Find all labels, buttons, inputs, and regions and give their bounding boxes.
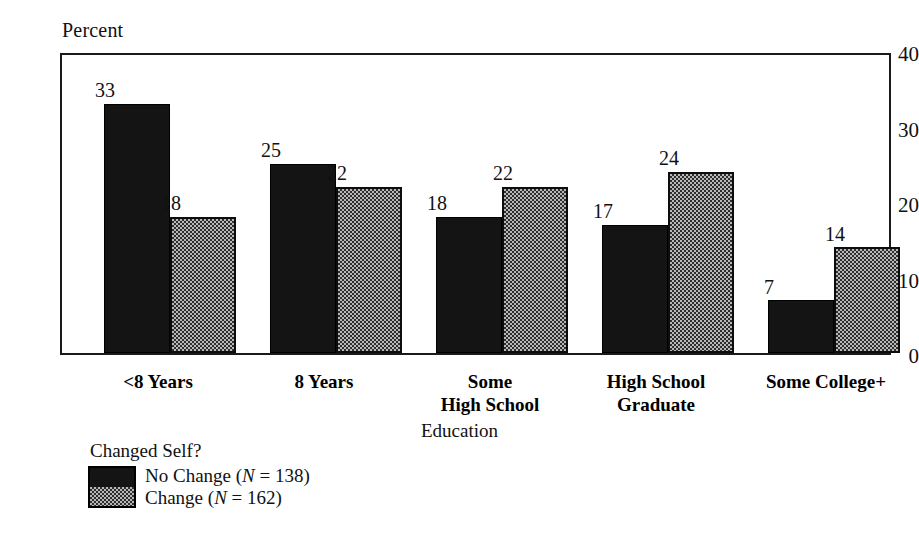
bar-no-change-4[interactable]	[768, 300, 834, 353]
bar-value-no-change-1: 25	[238, 140, 304, 160]
x-category-label-0: <8 Years	[78, 370, 238, 393]
bar-change-2[interactable]	[502, 187, 568, 353]
bar-value-no-change-4: 7	[736, 277, 802, 297]
chart-figure: Percent 40 30 20 10 0 33 18 25 22 18 22 …	[0, 0, 919, 544]
legend-entry-no-change-prefix: No Change (	[145, 465, 242, 486]
legend: Changed Self? No Change (N = 138) Change…	[88, 440, 418, 509]
x-axis-title: Education	[0, 421, 919, 440]
bar-change-3[interactable]	[668, 172, 734, 353]
legend-body: No Change (N = 138) Change (N = 162)	[88, 465, 418, 509]
x-category-label-4: Some College+	[736, 370, 916, 393]
x-category-label-3: High School Graduate	[576, 370, 736, 416]
legend-entry-change-prefix: Change (	[145, 487, 214, 508]
legend-swatch	[88, 466, 136, 508]
x-category-label-1: 8 Years	[244, 370, 404, 393]
bar-value-no-change-0: 33	[72, 80, 138, 100]
legend-entry-change-symbol: N	[214, 487, 227, 508]
legend-swatch-change	[90, 487, 134, 506]
legend-swatch-no-change	[90, 468, 134, 487]
legend-entry-change-suffix: = 162)	[227, 487, 282, 508]
bar-value-change-0: 18	[138, 193, 204, 213]
bar-value-no-change-2: 18	[404, 193, 470, 213]
bar-value-change-4: 14	[802, 224, 868, 244]
bar-value-change-3: 24	[636, 148, 702, 168]
bar-no-change-3[interactable]	[602, 225, 668, 353]
bar-value-change-2: 22	[470, 163, 536, 183]
legend-entry-no-change: No Change (N = 138)	[145, 465, 310, 487]
bar-value-change-1: 22	[304, 163, 370, 183]
bar-no-change-2[interactable]	[436, 217, 502, 353]
legend-entry-change: Change (N = 162)	[145, 487, 310, 509]
legend-entry-no-change-suffix: = 138)	[255, 465, 310, 486]
bar-change-0[interactable]	[170, 217, 236, 353]
bar-no-change-1[interactable]	[270, 164, 336, 353]
bar-change-4[interactable]	[834, 247, 900, 353]
bar-no-change-0[interactable]	[104, 104, 170, 353]
legend-entry-no-change-symbol: N	[242, 465, 255, 486]
y-axis-title: Percent	[62, 20, 123, 40]
legend-title: Changed Self?	[90, 440, 418, 462]
bar-change-1[interactable]	[336, 187, 402, 353]
x-category-label-2: Some High School	[410, 370, 570, 416]
legend-labels: No Change (N = 138) Change (N = 162)	[145, 465, 310, 509]
bar-value-no-change-3: 17	[570, 201, 636, 221]
